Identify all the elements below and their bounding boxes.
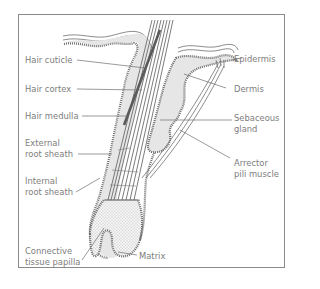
label-matrix: Matrix [139,251,165,261]
sebaceous-gland-region [148,55,236,152]
label-hair-medulla: Hair medulla [25,111,79,121]
leader-internal-root-sheath [76,178,100,192]
label-external-root-sheath-line1: External [25,138,60,148]
skin-surface-right [178,44,238,53]
label-arrector-pili-muscle-line1: Arrector [234,158,268,168]
label-external-root-sheath-line2: root sheath [25,149,73,159]
label-hair-cortex: Hair cortex [25,84,71,94]
label-internal-root-sheath-line2: root sheath [25,187,73,197]
label-arrector-pili-muscle-line2: pili muscle [234,169,279,179]
label-epidermis: Epidermis [234,54,276,64]
label-connective-tissue-papilla-line1: Connective [25,246,72,256]
label-dermis: Dermis [234,84,264,94]
hair-bulb [90,200,142,256]
label-connective-tissue-papilla-line2: tissue papilla [25,257,80,267]
label-sebaceous-gland-line1: Sebaceous [234,113,279,123]
leader-dermis [184,74,226,88]
leader-arrector-pili [180,130,230,158]
label-internal-root-sheath-line1: Internal [25,176,57,186]
label-hair-cuticle: Hair cuticle [25,55,72,65]
label-sebaceous-gland-line2: gland [234,124,257,134]
